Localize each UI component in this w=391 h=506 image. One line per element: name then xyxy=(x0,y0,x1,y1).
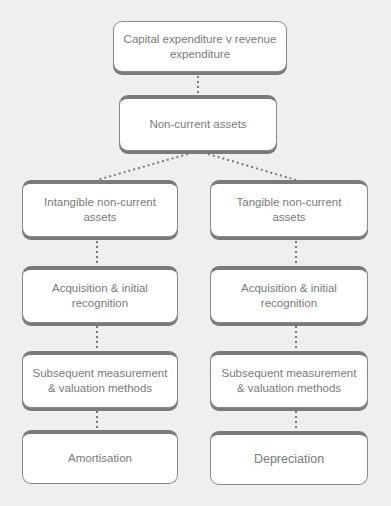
amortisation-label: Amortisation xyxy=(68,451,132,466)
tangible-acquisition-box: Acquisition & initial recognition xyxy=(210,266,368,323)
tangible-assets-box: Tangible non-current assets xyxy=(210,180,368,237)
intangible-acquisition-label: Acquisition & initial recognition xyxy=(31,281,169,311)
depreciation-label: Depreciation xyxy=(254,452,324,467)
depreciation-box: Depreciation xyxy=(210,431,368,485)
non-current-assets-label: Non-current assets xyxy=(149,117,246,132)
intangible-acquisition-box: Acquisition & initial recognition xyxy=(22,266,178,323)
tangible-subsequent-measurement-label: Subsequent measurement & valuation metho… xyxy=(219,366,359,396)
intangible-subsequent-measurement-box: Subsequent measurement & valuation metho… xyxy=(22,351,178,408)
tangible-acquisition-label: Acquisition & initial recognition xyxy=(219,281,359,311)
capex-vs-revenue-box: Capital expenditure v revenue expenditur… xyxy=(113,21,287,72)
intangible-assets-label: Intangible non-current assets xyxy=(31,195,169,225)
amortisation-box: Amortisation xyxy=(22,430,178,484)
non-current-assets-box: Non-current assets xyxy=(119,95,277,151)
tangible-subsequent-measurement-box: Subsequent measurement & valuation metho… xyxy=(210,351,368,408)
intangible-assets-box: Intangible non-current assets xyxy=(22,180,178,237)
capex-vs-revenue-label: Capital expenditure v revenue expenditur… xyxy=(122,32,278,62)
intangible-subsequent-measurement-label: Subsequent measurement & valuation metho… xyxy=(31,366,169,396)
tangible-assets-label: Tangible non-current assets xyxy=(219,195,359,225)
